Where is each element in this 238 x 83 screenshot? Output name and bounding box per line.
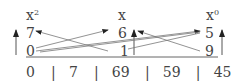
- separator: |: [42, 64, 64, 80]
- row-cell: 59: [163, 64, 183, 80]
- header-x-squared: x2: [26, 8, 39, 22]
- header-base: x: [26, 7, 34, 23]
- header-x-zero: x0: [206, 8, 219, 22]
- left-bottom-value: 0: [26, 44, 35, 58]
- row-cell: 7: [69, 64, 81, 80]
- row-cell: 69: [112, 64, 132, 80]
- separator: |: [187, 64, 209, 80]
- right-top-value: 5: [205, 26, 214, 40]
- header-exp: 2: [34, 8, 39, 17]
- middle-top-value: 6: [118, 26, 127, 40]
- middle-bottom-value: 1: [120, 44, 129, 58]
- bottom-row: 0 | 7 | 69 | 59 | 45: [26, 64, 234, 80]
- header-base: x: [206, 7, 214, 23]
- right-bottom-value: 9: [205, 44, 214, 58]
- header-base: x: [118, 7, 126, 23]
- header-exp: 0: [214, 8, 219, 17]
- separator: |: [85, 64, 107, 80]
- row-cell: 0: [26, 64, 38, 80]
- row-cell: 45: [214, 64, 234, 80]
- separator: |: [136, 64, 158, 80]
- header-x: x: [118, 8, 126, 22]
- left-top-value: 7: [26, 26, 35, 40]
